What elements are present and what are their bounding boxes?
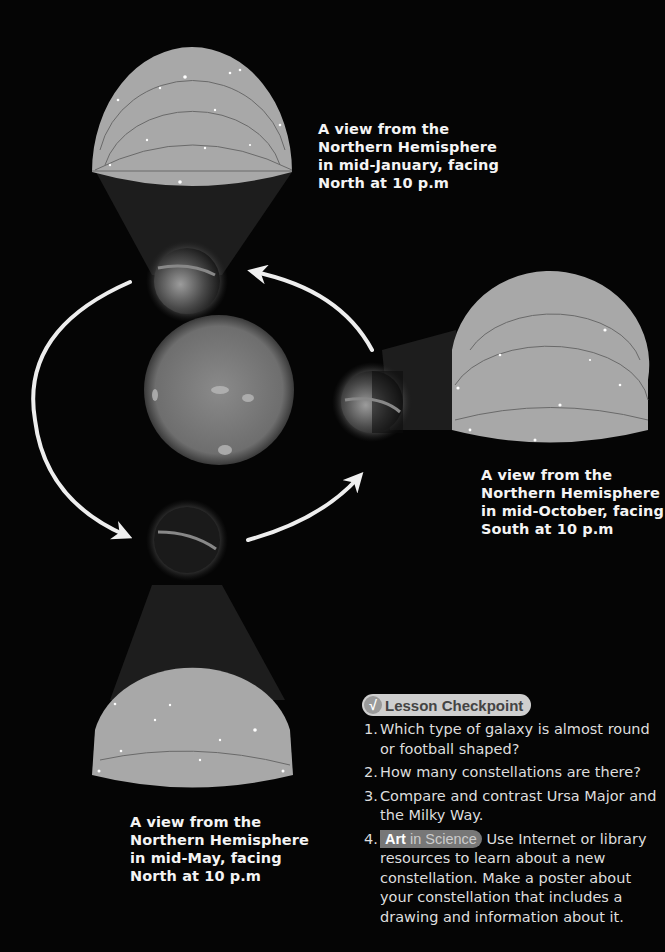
question-item: 3. Compare and contrast Ursa Major and t…	[360, 787, 665, 826]
question-text: How many constellations are there?	[380, 764, 641, 780]
caption-line: in mid-May, facing	[130, 849, 309, 867]
art-in-science-tag: Art in Science	[380, 830, 482, 848]
caption-line: Northern Hemisphere	[318, 138, 499, 156]
question-number: 4.	[364, 830, 378, 850]
checkmark-icon: √	[364, 696, 382, 714]
question-item: 1. Which type of galaxy is almost round …	[360, 720, 665, 759]
caption-october: A view from the Northern Hemisphere in m…	[481, 466, 664, 538]
caption-line: in mid-October, facing	[481, 502, 664, 520]
caption-line: South at 10 p.m	[481, 520, 664, 538]
caption-line: North at 10 p.m	[318, 174, 499, 192]
lesson-checkpoint: √ Lesson Checkpoint 1. Which type of gal…	[360, 694, 665, 931]
question-number: 3.	[364, 787, 378, 807]
question-item: 4. Art in Science Use Internet or librar…	[360, 830, 665, 928]
checkpoint-badge: √ Lesson Checkpoint	[362, 694, 531, 716]
question-text: Compare and contrast Ursa Major and the …	[380, 788, 656, 824]
question-number: 2.	[364, 763, 378, 783]
caption-line: A view from the	[130, 813, 309, 831]
tag-rest: in Science	[406, 831, 477, 847]
caption-may: A view from the Northern Hemisphere in m…	[130, 813, 309, 885]
tag-bold: Art	[385, 831, 406, 847]
sky-view-october	[382, 271, 649, 442]
checkpoint-title: Lesson Checkpoint	[385, 697, 523, 714]
question-list: 1. Which type of galaxy is almost round …	[360, 720, 665, 927]
earth-may	[146, 499, 228, 581]
caption-january: A view from the Northern Hemisphere in m…	[318, 120, 499, 192]
caption-line: North at 10 p.m	[130, 867, 309, 885]
question-text: Which type of galaxy is almost round or …	[380, 721, 650, 757]
caption-line: A view from the	[481, 466, 664, 484]
caption-line: A view from the	[318, 120, 499, 138]
caption-line: in mid-January, facing	[318, 156, 499, 174]
question-item: 2. How many constellations are there?	[360, 763, 665, 783]
earth-january	[146, 240, 228, 322]
earth-october	[332, 362, 412, 442]
caption-line: Northern Hemisphere	[130, 831, 309, 849]
caption-line: Northern Hemisphere	[481, 484, 664, 502]
question-number: 1.	[364, 720, 378, 740]
sky-view-may	[92, 585, 293, 788]
